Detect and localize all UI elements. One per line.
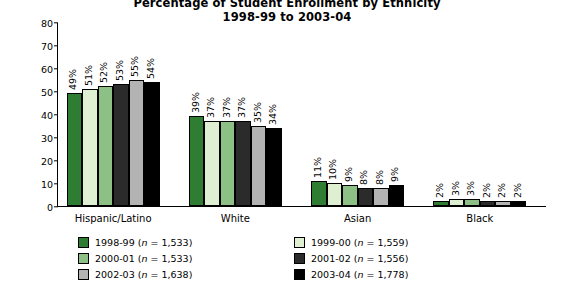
bar (204, 121, 220, 206)
bar-value-label: 39% (190, 92, 201, 113)
bar (82, 89, 98, 206)
legend-color-swatch (294, 237, 305, 248)
plot-area: 0102030405060708049%51%52%53%55%54%Hispa… (57, 23, 546, 207)
bar (358, 188, 374, 206)
bar (373, 188, 389, 206)
legend-item: 2001-02 (n = 1,556) (288, 250, 498, 266)
bar (189, 116, 205, 206)
bar-value-label: 49% (67, 69, 78, 90)
bar (480, 201, 496, 206)
legend-item-label: 2002-03 (n = 1,638) (95, 269, 192, 280)
y-axis-tick-mark (54, 114, 58, 115)
bar-group: 49%51%52%53%55%54% (67, 23, 160, 206)
legend-item-label: 2001-02 (n = 1,556) (311, 253, 408, 264)
bar-value-label: 9% (389, 167, 400, 182)
legend-item-label: 2003-04 (n = 1,778) (311, 269, 408, 280)
legend-item: 1999-00 (n = 1,559) (288, 234, 498, 250)
bar-value-label: 2% (434, 183, 445, 198)
bar-group: 39%37%37%37%35%34% (189, 23, 282, 206)
chart-title: Percentage of Student Enrollment by Ethn… (0, 0, 574, 24)
y-axis-tick-mark (54, 183, 58, 184)
y-axis-tick-mark (54, 68, 58, 69)
chart-title-line2: 1998-99 to 2003-04 (0, 10, 574, 24)
bar-value-label: 9% (343, 167, 354, 182)
y-axis-tick-mark (54, 137, 58, 138)
bar-value-label: 54% (145, 58, 156, 79)
legend-item: 2003-04 (n = 1,778) (288, 266, 498, 282)
bar-value-label: 11% (312, 157, 323, 178)
bar-value-label: 8% (374, 170, 385, 185)
chart-legend: 1998-99 (n = 1,533)1999-00 (n = 1,559)20… (78, 234, 498, 282)
bar (449, 199, 465, 206)
bar-value-label: 37% (221, 97, 232, 118)
bar-group: 2%3%3%2%2%2% (433, 23, 526, 206)
bar (389, 185, 405, 206)
bar-group: 11%10%9%8%8%9% (311, 23, 404, 206)
bar-value-label: 34% (267, 104, 278, 125)
bar-value-label: 55% (129, 55, 140, 76)
y-axis-tick-mark (54, 91, 58, 92)
bar (433, 201, 449, 206)
bar (113, 84, 129, 206)
bar (327, 183, 343, 206)
legend-item-label: 1998-99 (n = 1,533) (95, 237, 192, 248)
legend-item: 2002-03 (n = 1,638) (78, 266, 288, 282)
legend-item: 2000-01 (n = 1,533) (78, 250, 288, 266)
chart-title-line1: Percentage of Student Enrollment by Ethn… (133, 0, 440, 10)
bar (495, 201, 511, 206)
legend-color-swatch (294, 269, 305, 280)
y-axis-tick-mark (54, 45, 58, 46)
bar (311, 181, 327, 206)
bar-value-label: 3% (450, 181, 461, 196)
legend-item: 1998-99 (n = 1,533) (78, 234, 288, 250)
bar (67, 93, 83, 206)
bar (220, 121, 236, 206)
bar-value-label: 2% (512, 183, 523, 198)
bar-value-label: 35% (252, 101, 263, 122)
bar-value-label: 53% (114, 60, 125, 81)
bar (342, 185, 358, 206)
bar (464, 199, 480, 206)
bar (251, 126, 267, 207)
legend-color-swatch (78, 237, 89, 248)
bar (235, 121, 251, 206)
bar (266, 128, 282, 206)
bar (144, 82, 160, 206)
legend-color-swatch (294, 253, 305, 264)
y-axis-tick-mark (54, 22, 58, 23)
bar-value-label: 3% (465, 181, 476, 196)
bar-value-label: 37% (236, 97, 247, 118)
legend-color-swatch (78, 253, 89, 264)
legend-color-swatch (78, 269, 89, 280)
bar (98, 86, 114, 206)
bar (511, 201, 527, 206)
bar (129, 80, 145, 207)
x-axis-category-label: Black (393, 213, 566, 224)
y-axis-tick-mark (54, 160, 58, 161)
legend-item-label: 1999-00 (n = 1,559) (311, 237, 408, 248)
y-axis-tick-mark (54, 206, 58, 207)
bar-value-label: 2% (481, 183, 492, 198)
bar-value-label: 52% (98, 62, 109, 83)
bar-value-label: 10% (327, 159, 338, 180)
legend-item-label: 2000-01 (n = 1,533) (95, 253, 192, 264)
bar-value-label: 51% (83, 65, 94, 86)
bar-value-label: 8% (358, 170, 369, 185)
bar-value-label: 37% (205, 97, 216, 118)
bar-value-label: 2% (496, 183, 507, 198)
